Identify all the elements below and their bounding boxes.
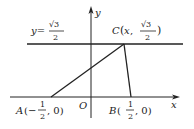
line-equation-label: y= √3 2 xyxy=(30,20,64,42)
segment-BC xyxy=(124,44,131,97)
point-C-numerator: √3 xyxy=(141,20,151,29)
point-B-open: ( xyxy=(117,105,121,116)
point-B-close: , 0) xyxy=(135,105,152,116)
line-label-numerator: √3 xyxy=(49,20,59,29)
y-axis-label: y xyxy=(94,7,101,18)
point-A-open: (− xyxy=(24,105,36,116)
line-label-denominator: 2 xyxy=(53,33,58,42)
point-B-numerator: 1 xyxy=(128,100,133,109)
point-C-label: C ( x , √3 2 ) xyxy=(112,20,161,42)
point-A-label: A (− 1 2 , 0) xyxy=(15,100,64,121)
point-A-denominator: 2 xyxy=(40,112,45,121)
point-B-name: B xyxy=(108,105,116,116)
point-B-denominator: 2 xyxy=(128,112,133,121)
coordinate-diagram: y x O y= √3 2 C ( x , √3 2 ) A (− 1 2 , … xyxy=(0,0,194,129)
point-C-sep: , xyxy=(130,25,133,36)
origin-label: O xyxy=(79,100,87,111)
point-A-close: , 0) xyxy=(47,105,64,116)
point-B-label: B ( 1 2 , 0) xyxy=(108,100,152,121)
point-C-denominator: 2 xyxy=(145,33,150,42)
line-label-prefix: y= xyxy=(30,25,45,36)
point-A-name: A xyxy=(15,105,23,116)
point-A-numerator: 1 xyxy=(40,100,45,109)
point-C-close: ) xyxy=(157,24,161,37)
x-axis-label: x xyxy=(171,99,177,110)
segment-AC xyxy=(51,44,124,97)
point-C-name: C xyxy=(112,25,120,36)
